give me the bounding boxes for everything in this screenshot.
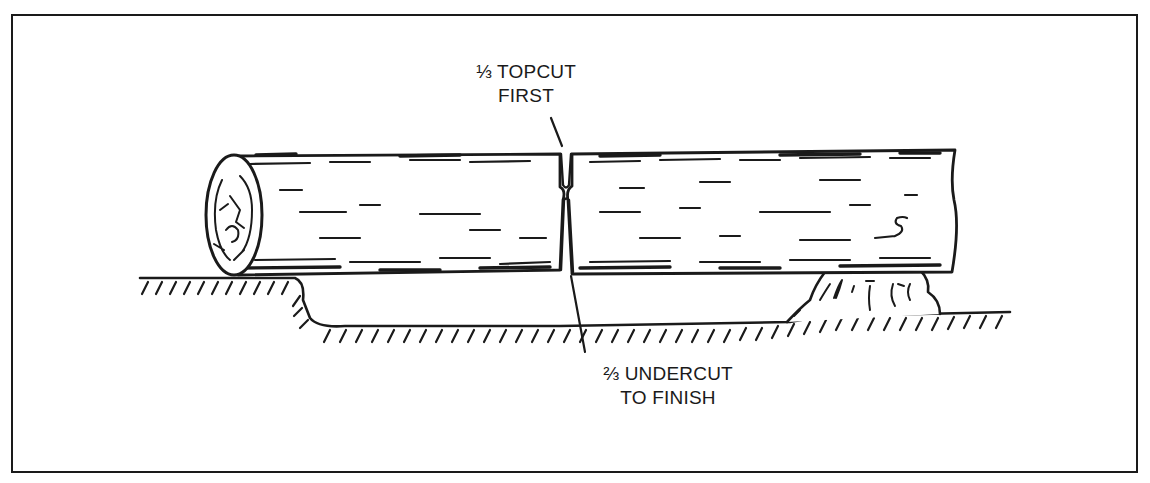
log-right-segment — [568, 150, 957, 274]
log-left-segment — [238, 154, 564, 275]
topcut-kerf — [561, 154, 571, 188]
undercut-label-line2: TO FINISH — [578, 386, 758, 410]
undercut-leader-line — [571, 276, 585, 352]
log-end-grain — [206, 155, 262, 275]
topcut-label: ⅓ TOPCUT FIRST — [446, 60, 606, 108]
undercut-label-line1: ⅔ UNDERCUT — [578, 362, 758, 386]
support-rock — [787, 270, 940, 322]
topcut-leader-line — [551, 118, 562, 146]
topcut-label-line1: ⅓ TOPCUT — [446, 60, 606, 84]
topcut-label-line2: FIRST — [446, 84, 606, 108]
undercut-label: ⅔ UNDERCUT TO FINISH — [578, 362, 758, 410]
